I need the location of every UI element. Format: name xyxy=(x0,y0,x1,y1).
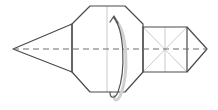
arrow-head-icon xyxy=(110,16,118,23)
origami-diagram-svg xyxy=(0,0,218,110)
left-triangle-flap xyxy=(13,24,72,72)
fold-arrow-shadow xyxy=(114,22,126,100)
origami-diagram xyxy=(0,0,218,110)
